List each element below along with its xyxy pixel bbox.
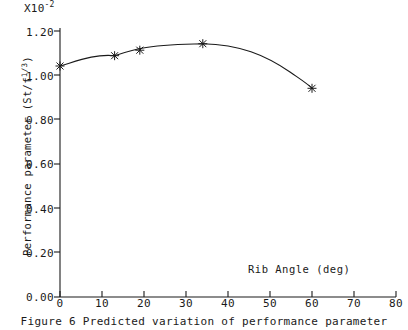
plot-area: [0, 0, 408, 330]
figure-caption: Figure 6 Predicted variation of performa…: [0, 315, 408, 328]
x-axis-ticks: [60, 291, 396, 297]
data-point-marker: [56, 62, 65, 71]
data-point-marker: [198, 39, 207, 48]
data-point-marker: [135, 46, 144, 55]
data-point-marker: [308, 84, 317, 93]
data-point-marker: [110, 51, 119, 60]
figure-container: X10-2 Performance parameter (St/f1/3) 1.…: [0, 0, 408, 330]
data-curve: [60, 44, 312, 89]
y-axis-ticks: [54, 31, 60, 297]
